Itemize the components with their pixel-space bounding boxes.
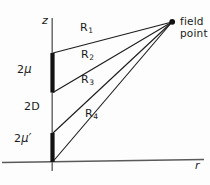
lower-segment-symbol: μ′ (21, 131, 31, 145)
ray-R3-base: R (81, 73, 89, 86)
diagram-canvas (0, 0, 210, 185)
ray-R3-label: R3 (81, 74, 94, 87)
ray-R1-base: R (80, 21, 88, 34)
gap-dimension-label: 2D (24, 101, 40, 113)
ray-R2-base: R (81, 48, 89, 61)
ray-R1-subscript: 1 (88, 26, 93, 35)
ray-R3-subscript: 3 (89, 78, 94, 87)
upper-segment-label: 2μ (17, 63, 32, 76)
z-axis-label: z (42, 15, 48, 27)
field-point-label-line2: point (180, 27, 208, 39)
ray-R4-subscript: 4 (93, 112, 98, 121)
ray-R2-subscript: 2 (89, 53, 94, 62)
lower-segment-label: 2μ′ (14, 132, 32, 145)
physics-diagram-figure: z r R1 R2 R3 R4 2μ 2D 2μ′ fieldpoint (0, 0, 210, 185)
ray-R4-base: R (85, 107, 93, 120)
ray-R4-label: R4 (85, 108, 98, 121)
r-axis-line (2, 160, 204, 163)
field-point-label: fieldpoint (180, 15, 208, 40)
field-point-marker (169, 19, 175, 25)
ray-R2-line (53, 22, 172, 93)
r-axis-label: r (195, 160, 200, 172)
ray-R1-label: R1 (80, 22, 93, 35)
ray-R3-line (53, 22, 172, 133)
ray-R4-line (53, 22, 172, 162)
ray-R1-line (53, 22, 172, 53)
field-point-label-line1: field (180, 15, 208, 27)
upper-segment-symbol: μ (24, 62, 32, 76)
ray-R2-label: R2 (81, 49, 94, 62)
